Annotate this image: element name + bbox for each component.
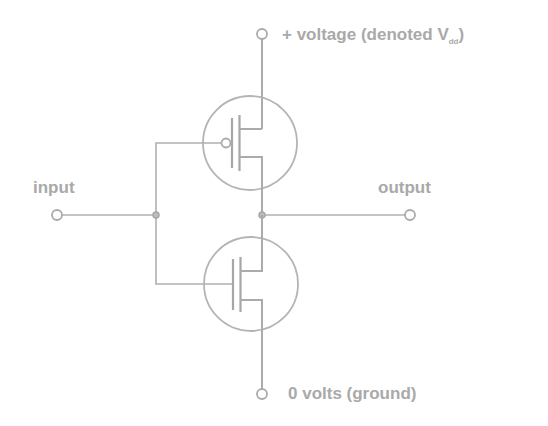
vdd-label-close: ) bbox=[459, 25, 465, 44]
input-junction-dot bbox=[153, 212, 159, 218]
vdd-terminal bbox=[257, 29, 267, 129]
output-terminal bbox=[259, 210, 415, 220]
ground-terminal bbox=[257, 389, 267, 399]
input-label: input bbox=[33, 178, 75, 197]
ground-label: 0 volts (ground) bbox=[288, 384, 416, 403]
input-terminal bbox=[52, 210, 159, 220]
output-label: output bbox=[378, 178, 431, 197]
cmos-inverter-diagram: + voltage (denoted Vdd) input output 0 v… bbox=[0, 0, 548, 426]
nmos-transistor bbox=[204, 215, 298, 389]
pmos-transistor bbox=[203, 96, 297, 215]
gate-bus bbox=[156, 143, 233, 284]
pmos-gate-bubble bbox=[222, 139, 231, 148]
vdd-subscript: dd bbox=[449, 37, 459, 46]
vdd-label-text: + voltage (denoted V bbox=[282, 25, 449, 44]
vdd-label: + voltage (denoted Vdd) bbox=[282, 25, 464, 46]
